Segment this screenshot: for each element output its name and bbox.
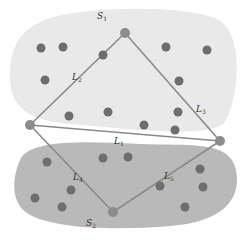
vertex-right (215, 136, 225, 146)
label-l1: L1 (113, 136, 124, 147)
diagram-canvas: S1 S2 L1 L2 L3 L4 L5 (0, 0, 247, 242)
vertex-top (120, 28, 130, 38)
vertex-left (25, 120, 35, 130)
vertex-bottom (108, 207, 118, 217)
